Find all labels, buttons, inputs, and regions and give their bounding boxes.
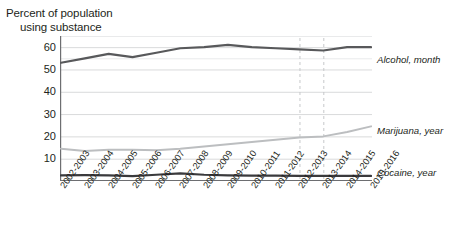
chart-title-line-2: using substance bbox=[6, 21, 113, 35]
chart-title-line-1: Percent of population bbox=[6, 7, 113, 19]
y-axis-tick-labels: 102030405060 bbox=[26, 36, 56, 181]
series-label-alcohol: Alcohol, month bbox=[377, 55, 440, 65]
x-axis-tick-labels: 2002-20032003-20042004-20052005-20062006… bbox=[60, 181, 372, 241]
y-tick-label: 30 bbox=[30, 109, 56, 120]
y-tick-label: 10 bbox=[30, 153, 56, 164]
series-label-cocaine: Cocaine, year bbox=[377, 168, 436, 178]
y-tick-label: 40 bbox=[30, 86, 56, 97]
chart-figure: Percent of population using substance 10… bbox=[0, 0, 452, 241]
y-tick-label: 60 bbox=[30, 42, 56, 53]
series-label-marijuana: Marijuana, year bbox=[377, 126, 443, 136]
page-title: Percent of population using substance bbox=[6, 7, 113, 34]
y-tick-label: 20 bbox=[30, 131, 56, 142]
series-line-1 bbox=[61, 126, 371, 151]
y-tick-label: 50 bbox=[30, 64, 56, 75]
